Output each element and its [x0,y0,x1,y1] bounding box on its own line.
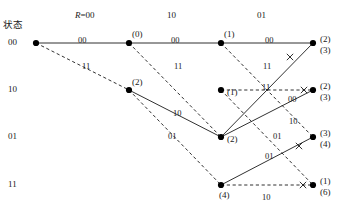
trellis-node-n0[interactable] [33,40,39,46]
branch-label-n2a-n3c: 11 [263,62,271,71]
path-metric-n1a: (0) [132,30,143,39]
path-metric-n1b: (2) [132,78,143,87]
path-metric-alt-n3c: (4) [320,140,331,149]
trellis-node-n2a[interactable] [218,40,224,46]
path-metric-alt-n3d: (6) [320,188,331,197]
branch-label-n1a-n2c: 11 [174,62,182,71]
branch-label-n1b-n2c: 10 [173,109,182,118]
branch-label-n2b-n3d: 01 [273,132,282,141]
branch-label-n0-n1b: 11 [82,62,90,71]
branch-label-n1a-n2a: 00 [171,36,180,45]
path-metric-alt-n3a: (3) [320,46,331,55]
branch-label-n2b-n3b: 00 [288,95,297,104]
branch-label-n2c-n3a: 11 [262,83,270,92]
branch-label-n2c-n3b: 10 [289,117,298,126]
path-metric-n3d: (1) [320,177,331,186]
state-axis-title: 状态 [3,20,23,30]
path-metric-n3c: (3) [320,129,331,138]
trellis-branch-n2c-n3b [221,90,313,137]
row-state-label-00: 00 [8,38,17,47]
pruned-path-x-mark [301,87,307,93]
path-metric-alt-n3b: (3) [320,93,331,102]
pruned-path-x-mark [287,54,293,60]
received-symbol-header-2: 01 [257,11,266,20]
path-metric-n2b: (1) [227,88,238,97]
row-state-label-10: 10 [8,85,17,94]
trellis-branch-n1a-n2c [129,43,221,137]
branch-label-n2a-n3a: 00 [265,36,274,45]
branch-label-n2d-n3d: 10 [262,193,271,202]
trellis-node-n2d[interactable] [218,182,224,188]
path-metric-n2d: (4) [219,191,230,200]
received-symbol-header-0: R=00 [75,11,95,20]
trellis-node-n3a[interactable] [310,40,316,46]
row-state-label-01: 01 [8,132,17,141]
trellis-branch-n2d-n3c [221,137,313,185]
trellis-node-n2b[interactable] [218,87,224,93]
branch-label-n0-n1a: 00 [78,36,87,45]
branch-label-n2d-n3c: 01 [265,152,274,161]
path-metric-n3a: (2) [320,35,331,44]
trellis-node-n1b[interactable] [126,87,132,93]
trellis-node-n3c[interactable] [310,134,316,140]
received-symbol-header-1: 10 [167,11,176,20]
trellis-node-n1a[interactable] [126,40,132,46]
path-metric-n2a: (1) [224,30,235,39]
row-state-label-11: 11 [8,180,17,189]
branch-label-n1b-n2d: 01 [168,132,177,141]
trellis-node-n2c[interactable] [218,134,224,140]
pruned-path-x-mark [296,143,302,149]
trellis-node-n3d[interactable] [310,182,316,188]
path-metric-n3b: (2) [320,82,331,91]
path-metric-n2c: (2) [227,135,238,144]
trellis-node-n3b[interactable] [310,87,316,93]
